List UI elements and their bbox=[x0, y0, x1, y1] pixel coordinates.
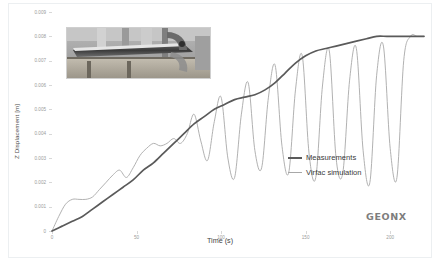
legend-line-icon-virfac-simulation bbox=[288, 172, 302, 173]
geonx-logo: GEONX bbox=[366, 211, 407, 222]
legend-line-icon-measurements bbox=[288, 157, 302, 159]
legend-item-virfac-simulation: Virfac simulation bbox=[288, 165, 362, 180]
welded-beam-specimen-photo bbox=[66, 27, 211, 79]
chart-figure: Z Displacement [m] Time (s) 00.0010.0020… bbox=[0, 0, 440, 270]
legend-label-virfac-simulation: Virfac simulation bbox=[306, 168, 362, 177]
legend-label-measurements: Measurements bbox=[306, 153, 356, 162]
chart-legend: Measurements Virfac simulation bbox=[288, 150, 362, 180]
legend-item-measurements: Measurements bbox=[288, 150, 362, 165]
